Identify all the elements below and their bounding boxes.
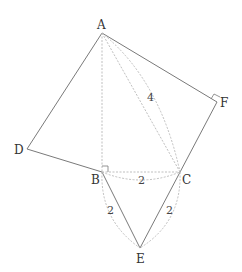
- length-BE: 2: [107, 204, 114, 217]
- edge-FE: [140, 102, 217, 248]
- edge-DB: [27, 149, 102, 172]
- length-CE: 2: [166, 204, 173, 217]
- edge-AF: [102, 33, 217, 102]
- length-AC: 4: [147, 91, 154, 104]
- right-angle-mark-B: [102, 166, 108, 172]
- edge-AC-dashed: [102, 33, 180, 172]
- arc-AC: [102, 33, 180, 172]
- label-B: B: [91, 173, 100, 187]
- length-BC: 2: [138, 174, 145, 187]
- label-D: D: [14, 143, 24, 157]
- geometry-diagram: A F D B C E 4 2 2 2: [0, 0, 242, 272]
- label-F: F: [220, 96, 228, 110]
- label-A: A: [96, 18, 106, 32]
- right-angle-mark-F: [211, 94, 220, 99]
- edge-AD: [27, 33, 102, 149]
- label-C: C: [182, 173, 191, 187]
- label-E: E: [136, 252, 145, 266]
